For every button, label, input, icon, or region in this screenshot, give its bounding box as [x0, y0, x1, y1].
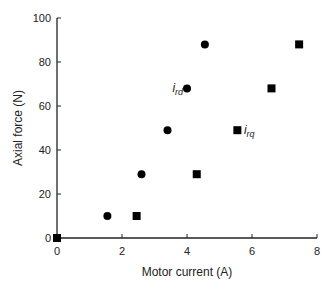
series-label: irq [244, 123, 255, 139]
scatter-chart: 02040608010002468Motor current (A)Axial … [0, 0, 333, 292]
circle-marker [164, 126, 172, 134]
circle-marker [138, 170, 146, 178]
y-tick-label: 20 [39, 188, 51, 200]
circle-marker [201, 40, 209, 48]
y-tick-label: 100 [33, 12, 51, 24]
x-tick-label: 4 [184, 245, 190, 257]
y-tick-label: 60 [39, 100, 51, 112]
square-marker [53, 234, 61, 242]
circle-marker [103, 212, 111, 220]
y-tick-label: 0 [45, 232, 51, 244]
data-points [53, 40, 303, 242]
series-label: ird [172, 81, 184, 97]
circle-marker [183, 84, 191, 92]
y-tick-label: 80 [39, 56, 51, 68]
x-axis-label: Motor current (A) [142, 265, 233, 279]
y-axis-label: Axial force (N) [11, 90, 25, 166]
square-marker [295, 40, 303, 48]
x-tick-label: 8 [314, 245, 320, 257]
x-tick-label: 6 [249, 245, 255, 257]
square-marker [268, 84, 276, 92]
square-marker [233, 126, 241, 134]
y-tick-label: 40 [39, 144, 51, 156]
x-tick-label: 2 [119, 245, 125, 257]
square-marker [133, 212, 141, 220]
x-tick-label: 0 [54, 245, 60, 257]
square-marker [193, 170, 201, 178]
